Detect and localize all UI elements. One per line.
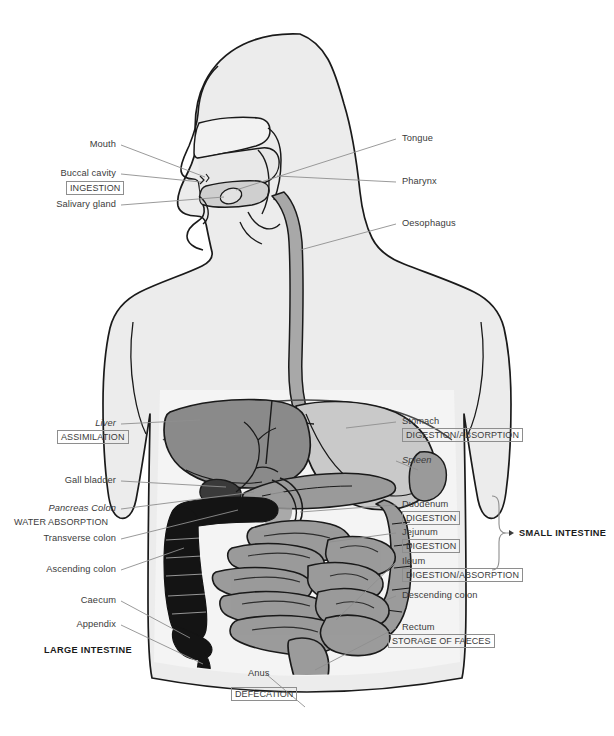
label-ileum: Ileum (402, 556, 425, 567)
label-stomach: Stomach (402, 416, 439, 427)
label-tongue: Tongue (402, 133, 433, 144)
label-ingestion: INGESTION (66, 181, 124, 195)
label-gall-bladder: Gall bladder (20, 475, 116, 486)
label-duodenum-function: DIGESTION (402, 511, 460, 525)
label-transverse-colon: Transverse colon (10, 533, 116, 544)
label-assimilation: ASSIMILATION (57, 430, 129, 444)
label-water-absorption: WATER ABSORPTION (14, 517, 108, 527)
label-ileum-function: DIGESTION/ABSORPTION (402, 568, 523, 582)
label-ascending-colon: Ascending colon (10, 564, 116, 575)
label-oesophagus: Oesophagus (402, 218, 456, 229)
label-rectum: Rectum (402, 622, 435, 633)
digestive-system-diagram: Mouth Buccal cavity INGESTION Salivary g… (0, 0, 614, 736)
label-caecum: Caecum (20, 595, 116, 606)
label-large-intestine: LARGE INTESTINE (44, 645, 132, 656)
label-spleen: Spleen (402, 455, 432, 466)
label-pancreas-colon: Pancreas Colon (14, 503, 116, 514)
label-buccal-cavity: Buccal cavity (20, 168, 116, 179)
label-small-intestine: SMALL INTESTINE (519, 528, 606, 539)
label-mouth: Mouth (20, 139, 116, 150)
label-rectum-function: STORAGE OF FAECES (388, 634, 495, 648)
label-jejunum-function: DIGESTION (402, 539, 460, 553)
label-duodenum: Duodenum (402, 499, 448, 510)
label-descending-colon: Descending colon (402, 590, 478, 601)
label-anus: Anus (248, 668, 270, 679)
label-appendix: Appendix (20, 619, 116, 630)
bracket-arrow-head (509, 530, 514, 536)
label-liver: Liver (30, 418, 116, 429)
label-jejunum: Jejunum (402, 527, 438, 538)
label-defecation: DEFECATION (231, 687, 297, 701)
label-stomach-function: DIGESTION/ABSORPTION (402, 428, 523, 442)
label-pharynx: Pharynx (402, 176, 437, 187)
label-salivary-gland: Salivary gland (16, 199, 116, 210)
